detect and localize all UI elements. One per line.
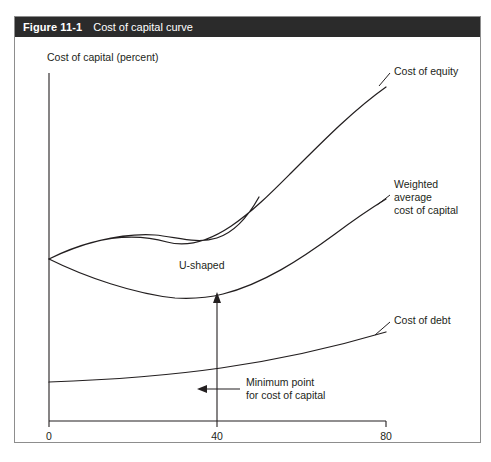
y-axis-title: Cost of capital (percent) <box>47 51 158 63</box>
figure-header-bar: Figure 11-1 Cost of capital curve <box>15 17 480 37</box>
chart-plot-area: Cost of capital (percent) 0 40 80 U-shap… <box>15 37 480 443</box>
x-tick-label-80: 80 <box>380 430 392 442</box>
wacc-curve <box>49 199 386 298</box>
annotation-minimum-point-line2: for cost of capital <box>246 389 325 401</box>
minimum-point-up-arrowhead <box>213 292 221 303</box>
x-tick-label-0: 0 <box>46 430 52 442</box>
wacc-label-line3: cost of capital <box>394 204 458 216</box>
figure-number: Figure 11-1 <box>23 21 82 33</box>
wacc-label-line2: average <box>394 191 432 203</box>
cost-of-equity-label: Cost of equity <box>394 65 459 77</box>
cost-of-equity-leader-line <box>379 73 390 86</box>
figure-frame: Figure 11-1 Cost of capital curve Cost o… <box>14 16 481 443</box>
cost-of-debt-label: Cost of debt <box>394 314 451 326</box>
minimum-point-left-arrowhead <box>197 385 207 393</box>
wacc-leader-line <box>377 195 390 205</box>
annotation-u-shaped: U-shaped <box>179 259 225 271</box>
x-tick-label-40: 40 <box>211 430 223 442</box>
figure-caption: Cost of capital curve <box>93 21 193 33</box>
annotation-minimum-point-line1: Minimum point <box>246 376 314 388</box>
wacc-label-line1: Weighted <box>394 178 438 190</box>
